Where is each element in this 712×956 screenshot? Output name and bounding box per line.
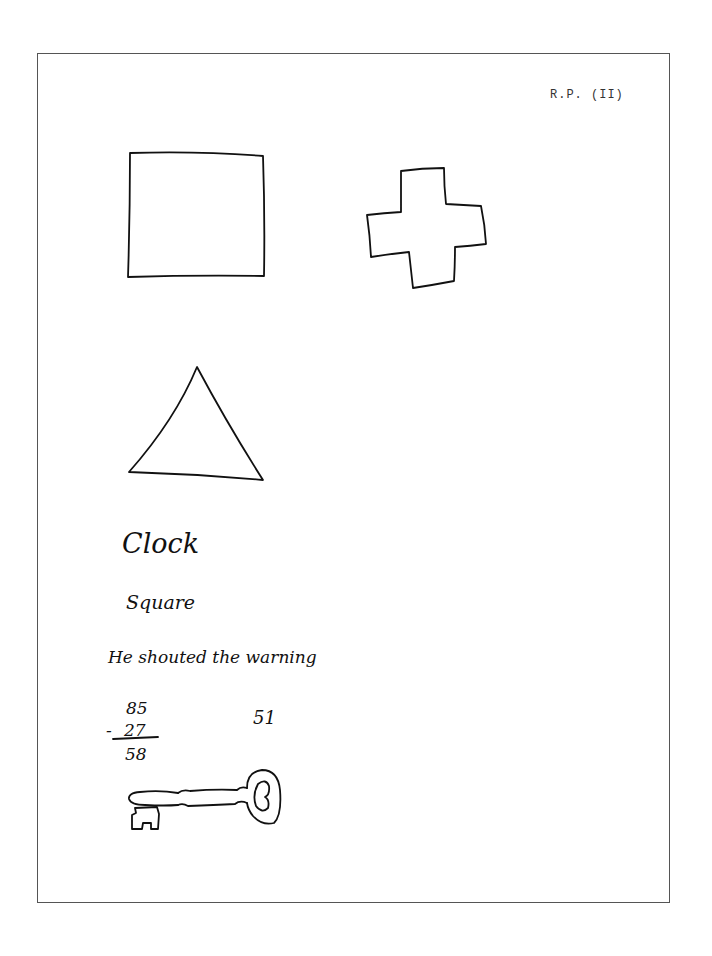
handwritten-word-clock: Clock <box>122 528 199 559</box>
key-bow-outer <box>247 770 280 824</box>
triangle-drawing <box>129 367 263 480</box>
key-blade <box>129 791 178 805</box>
square-drawing <box>128 152 264 277</box>
key-bit <box>132 807 159 829</box>
handwritten-word-square: Square <box>126 591 195 613</box>
side-number: 51 <box>253 707 276 728</box>
arithmetic-operator: - <box>106 720 112 740</box>
arithmetic-result: 58 <box>125 744 147 764</box>
arithmetic-line <box>113 737 158 739</box>
drawing-canvas: Clock Square He shouted the warning 85 -… <box>0 0 712 956</box>
arithmetic-top: 85 <box>126 698 148 718</box>
key-shaft <box>178 787 247 806</box>
cross-drawing <box>367 168 486 288</box>
key-bow-hole <box>254 781 269 810</box>
key-drawing <box>129 770 280 829</box>
handwritten-sentence: He shouted the warning <box>107 647 317 667</box>
